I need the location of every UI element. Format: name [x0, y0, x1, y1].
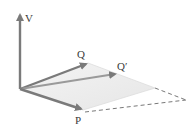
- label-p: P: [75, 114, 81, 126]
- dashed-line-upper: [155, 88, 186, 100]
- vector-diagram: V Q Q′ P: [0, 0, 193, 133]
- label-v: V: [25, 12, 33, 24]
- label-q: Q: [77, 48, 85, 60]
- label-qprime: Q′: [117, 60, 127, 72]
